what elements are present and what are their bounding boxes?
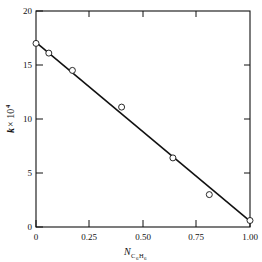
x-axis-ticks-top xyxy=(89,11,196,17)
regression-line xyxy=(36,42,250,221)
x-tick-label-0: 0 xyxy=(34,232,39,242)
y-tick-label-5: 5 xyxy=(28,168,33,178)
data-point xyxy=(170,155,176,161)
x-axis-ticks xyxy=(36,220,250,227)
y-axis-title-exponent: 4 xyxy=(4,104,11,108)
chart-figure: 0 5 10 15 20 0 0.25 0.50 0.75 1.00 N C 6… xyxy=(0,0,262,262)
y-axis-title: k × 10 4 xyxy=(4,104,16,133)
data-point xyxy=(46,50,52,56)
y-axis-title-k: k xyxy=(5,128,16,133)
x-axis-title-sub-num2: 6 xyxy=(144,256,147,261)
y-tick-label-0: 0 xyxy=(28,222,33,232)
y-axis-ticks-right xyxy=(244,65,250,173)
data-point xyxy=(119,104,125,110)
data-point xyxy=(247,218,253,224)
y-axis-title-mult: × 10 xyxy=(5,109,16,127)
x-tick-label-100: 1.00 xyxy=(242,232,258,242)
y-tick-label-10: 10 xyxy=(23,114,33,124)
data-point xyxy=(206,192,212,198)
y-tick-label-15: 15 xyxy=(23,60,33,70)
x-tick-label-025: 0.25 xyxy=(81,232,97,242)
x-tick-label-050: 0.50 xyxy=(135,232,151,242)
x-tick-label-075: 0.75 xyxy=(188,232,204,242)
y-tick-label-20: 20 xyxy=(23,6,33,16)
x-axis-title: N C 6 H 6 xyxy=(123,246,147,261)
data-point xyxy=(69,67,75,73)
data-point xyxy=(33,40,39,46)
x-axis-title-sub-c: C xyxy=(131,252,135,259)
chart-plot-area: 0 5 10 15 20 0 0.25 0.50 0.75 1.00 N C 6… xyxy=(0,0,262,262)
